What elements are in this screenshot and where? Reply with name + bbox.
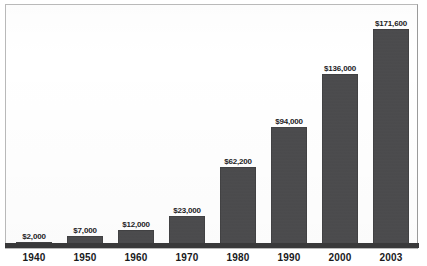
- x-axis-baseline: [5, 243, 419, 248]
- bar-group: $23,0001970: [169, 0, 205, 266]
- x-axis-label-1990: 1990: [277, 252, 300, 264]
- bar-2003: [373, 29, 409, 245]
- bar-1980: [220, 167, 256, 245]
- bar-value-label-1950: $7,000: [73, 226, 96, 235]
- x-axis-label-1970: 1970: [175, 252, 198, 264]
- x-axis-label-1940: 1940: [22, 252, 45, 264]
- bar-value-label-1990: $94,000: [275, 117, 303, 126]
- bars-layer: $2,0001940$7,0001950$12,0001960$23,00019…: [0, 0, 427, 266]
- x-axis-label-2003: 2003: [379, 252, 402, 264]
- bar-1970: [169, 216, 205, 245]
- x-axis-label-1960: 1960: [124, 252, 147, 264]
- bar-2000: [322, 74, 358, 245]
- bar-group: $94,0001990: [271, 0, 307, 266]
- bar-value-label-1940: $2,000: [22, 232, 45, 241]
- bar-group: $62,2001980: [220, 0, 256, 266]
- bar-value-label-1960: $12,000: [122, 220, 150, 229]
- bar-group: $136,0002000: [322, 0, 358, 266]
- bar-group: $12,0001960: [118, 0, 154, 266]
- bar-chart-figure: $2,0001940$7,0001950$12,0001960$23,00019…: [0, 0, 427, 266]
- bar-value-label-1980: $62,200: [224, 157, 252, 166]
- bar-value-label-1970: $23,000: [173, 206, 201, 215]
- bar-1990: [271, 127, 307, 245]
- x-axis-label-2000: 2000: [328, 252, 351, 264]
- x-axis-label-1950: 1950: [73, 252, 96, 264]
- bar-group: $7,0001950: [67, 0, 103, 266]
- bar-value-label-2003: $171,600: [375, 19, 407, 28]
- bar-value-label-2000: $136,000: [324, 64, 356, 73]
- bar-group: $2,0001940: [16, 0, 52, 266]
- bar-group: $171,6002003: [373, 0, 409, 266]
- x-axis-label-1980: 1980: [226, 252, 249, 264]
